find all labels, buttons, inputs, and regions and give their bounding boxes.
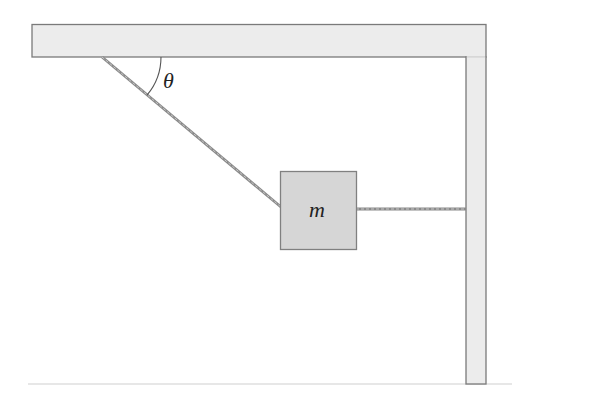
ceiling-support [32,25,486,58]
tension-diagram: θ m [0,0,609,413]
wall-support [466,57,486,384]
mass-label: m [309,197,325,222]
angle-label: θ [163,68,174,93]
angle-arc [147,57,161,95]
angled-rope-texture [102,57,281,207]
